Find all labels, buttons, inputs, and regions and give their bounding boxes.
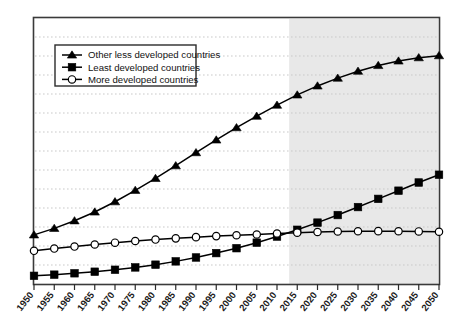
data-point-marker	[435, 171, 443, 179]
x-axis-tick-label: 1990	[176, 289, 198, 312]
data-point-marker	[395, 228, 402, 235]
data-point-marker	[375, 227, 382, 234]
data-point-marker	[212, 249, 220, 257]
x-axis-tick-label: 1950	[14, 289, 36, 312]
data-point-marker	[30, 272, 38, 280]
data-point-marker	[171, 162, 180, 169]
data-point-marker	[172, 258, 180, 266]
data-point-marker	[253, 239, 261, 247]
population-projection-chart: 1950195519601965197019751980198519901995…	[0, 0, 460, 330]
data-point-marker	[110, 198, 119, 205]
data-point-marker	[71, 269, 79, 277]
data-point-marker	[152, 236, 159, 243]
data-point-marker	[232, 124, 241, 131]
data-point-marker	[415, 179, 423, 187]
x-axis-tick-label: 1965	[75, 289, 97, 313]
data-point-marker	[111, 239, 118, 246]
data-point-marker	[314, 228, 321, 235]
data-point-marker	[191, 148, 200, 155]
data-point-marker	[152, 261, 160, 269]
x-axis-tick-label: 1960	[54, 289, 76, 312]
data-point-marker	[294, 229, 301, 236]
data-point-marker	[435, 228, 442, 235]
data-point-marker	[131, 264, 139, 272]
legend-item-label: More developed countries	[88, 74, 199, 85]
x-axis-tick-label: 1955	[34, 289, 56, 313]
legend-item-label: Least developed countries	[88, 62, 200, 73]
data-point-marker	[90, 208, 99, 215]
x-axis-tick-labels: 1950195519601965197019751980198519901995…	[14, 289, 441, 313]
data-point-marker	[354, 203, 362, 211]
legend-marker-square	[68, 63, 76, 71]
data-point-marker	[273, 230, 280, 237]
x-axis-tick-label: 2005	[237, 289, 259, 313]
data-point-marker	[91, 241, 98, 248]
x-axis-tick-label: 2000	[216, 289, 238, 312]
data-point-marker	[50, 271, 58, 279]
data-point-marker	[51, 245, 58, 252]
data-point-marker	[213, 232, 220, 239]
data-point-marker	[415, 228, 422, 235]
data-point-marker	[233, 244, 241, 252]
x-axis-tick-label: 1995	[196, 289, 218, 313]
x-axis-tick-label: 1975	[115, 289, 137, 313]
x-axis-tick-label: 2040	[378, 289, 400, 312]
legend-marker-circle-open	[68, 76, 75, 83]
x-axis-tick-label: 2045	[399, 289, 421, 313]
x-axis-tick-label: 1985	[156, 289, 178, 313]
data-point-marker	[334, 211, 342, 219]
data-point-marker	[374, 195, 382, 203]
x-axis-tick-label: 2015	[277, 289, 299, 313]
data-point-marker	[192, 254, 200, 262]
x-axis-tick-label: 2020	[297, 289, 319, 312]
data-point-marker	[314, 219, 322, 227]
chart-canvas: 1950195519601965197019751980198519901995…	[0, 0, 460, 330]
data-point-marker	[192, 233, 199, 240]
x-axis-tick-label: 2035	[358, 289, 380, 313]
x-axis-tick-label: 1970	[95, 289, 117, 312]
x-axis-tick-label: 2010	[257, 289, 279, 312]
data-point-marker	[111, 266, 119, 274]
data-point-marker	[172, 235, 179, 242]
x-axis-ticks	[34, 284, 439, 290]
x-axis-tick-label: 1980	[135, 289, 157, 312]
chart-legend: Other less developed countriesLeast deve…	[55, 45, 220, 86]
data-point-marker	[30, 247, 37, 254]
data-point-marker	[71, 243, 78, 250]
data-point-marker	[253, 231, 260, 238]
data-point-marker	[70, 217, 79, 224]
data-point-marker	[132, 237, 139, 244]
data-point-marker	[233, 232, 240, 239]
x-axis-tick-label: 2050	[419, 289, 441, 312]
x-axis-tick-label: 2030	[338, 289, 360, 312]
legend-item-label: Other less developed countries	[88, 49, 220, 60]
data-point-marker	[151, 174, 160, 181]
data-point-marker	[91, 268, 99, 276]
data-point-marker	[334, 228, 341, 235]
data-point-marker	[131, 186, 140, 193]
data-point-marker	[272, 101, 281, 108]
data-point-marker	[395, 187, 403, 195]
x-axis-tick-label: 2025	[318, 289, 340, 313]
data-point-marker	[354, 228, 361, 235]
data-point-marker	[212, 136, 221, 143]
